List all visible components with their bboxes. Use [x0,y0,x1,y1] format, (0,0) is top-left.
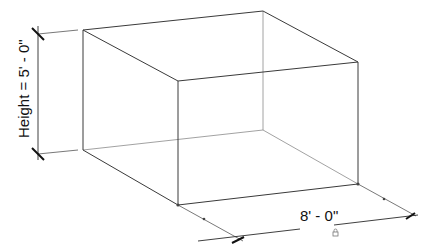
front-bottom-edge [178,184,358,205]
endpoint-grip-right[interactable] [356,182,359,185]
endpoint-grip-left[interactable] [176,203,179,206]
box-diagram: Height = 5' - 0" 8' - 0" [0,0,437,248]
midpoint-grip-left[interactable] [203,218,206,221]
back-top-edge [83,11,263,30]
width-dimension-label[interactable]: 8' - 0" [300,207,338,224]
height-extension-bottom [38,150,78,154]
height-dimension[interactable]: Height = 5' - 0" [15,26,78,160]
back-bottom-edge [83,130,263,150]
width-dimension-line-left [198,229,300,241]
width-dimension-line-right [334,215,418,225]
height-dimension-label[interactable]: Height = 5' - 0" [15,39,32,138]
width-extension-right [358,184,416,216]
lock-icon[interactable] [333,229,338,236]
front-top-edge [178,62,358,81]
visible-edges [83,11,358,205]
right-top-depth-edge [263,11,358,62]
height-extension-top [38,30,78,34]
width-extension-left [178,205,243,241]
back-edges [83,11,358,184]
right-bottom-depth-edge [263,130,358,184]
midpoint-grip-right[interactable] [383,198,386,201]
left-top-depth-edge [83,30,178,81]
left-bottom-depth-edge [83,150,178,205]
